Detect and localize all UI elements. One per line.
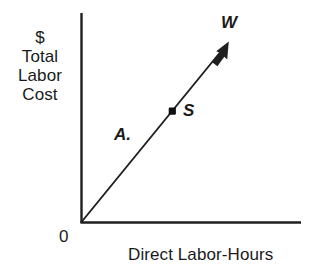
line-mid-label-a: A. — [114, 125, 131, 144]
y-axis-title-line-3: Labor — [4, 66, 76, 85]
y-axis-title-line-4: Cost — [4, 85, 76, 104]
point-s-marker — [169, 108, 176, 115]
y-axis-title: $ Total Labor Cost — [4, 28, 76, 104]
total-labor-cost-line — [82, 50, 223, 222]
line-arrowhead-icon — [212, 42, 229, 67]
y-axis-title-line-1: $ — [4, 28, 76, 47]
origin-label: 0 — [59, 227, 68, 246]
labor-cost-chart-figure: $ Total Labor Cost 0 Direct Labor-Hours … — [0, 0, 319, 271]
y-axis-title-line-2: Total — [4, 47, 76, 66]
point-label-s: S — [183, 101, 194, 120]
x-axis-title: Direct Labor-Hours — [128, 245, 273, 264]
line-end-label-w: W — [221, 13, 237, 32]
